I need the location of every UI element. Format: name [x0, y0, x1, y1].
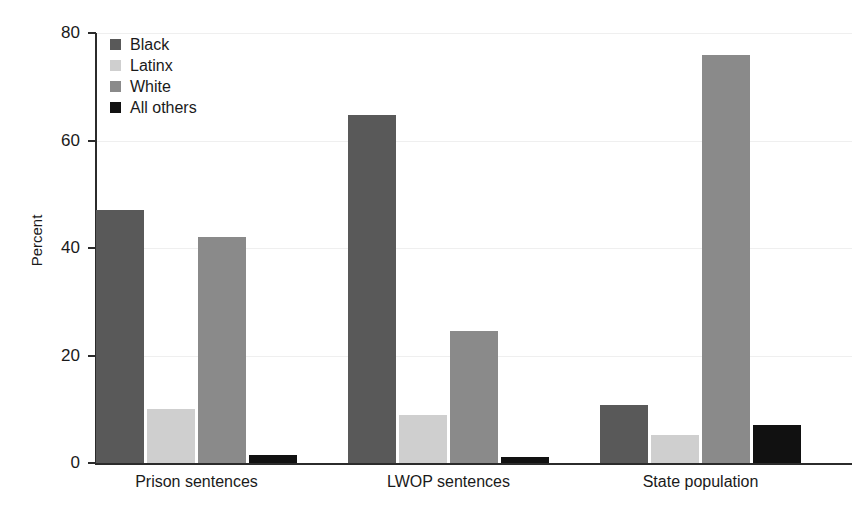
legend-item: White	[110, 76, 197, 97]
y-axis-tick-label: 20	[40, 347, 80, 364]
legend-item-label: All others	[130, 100, 197, 116]
legend-item: Black	[110, 34, 197, 55]
legend-item: Latinx	[110, 55, 197, 76]
legend-item-label: Black	[130, 37, 169, 53]
bar	[702, 55, 750, 463]
y-axis-tick	[88, 247, 96, 249]
y-axis-tick-label: 0	[40, 454, 80, 471]
bar	[348, 115, 396, 463]
legend-swatch-icon	[110, 102, 121, 113]
bar	[753, 425, 801, 463]
x-axis-line	[95, 463, 852, 465]
legend-swatch-icon	[110, 60, 121, 71]
y-axis-tick-label: 80	[40, 24, 80, 41]
y-axis-tick-label: 40	[40, 239, 80, 256]
legend-swatch-icon	[110, 39, 121, 50]
bar	[501, 457, 549, 463]
bar	[249, 455, 297, 463]
bar	[96, 210, 144, 463]
bar	[600, 405, 648, 463]
legend: BlackLatinxWhiteAll others	[110, 34, 197, 118]
bar	[450, 331, 498, 463]
legend-swatch-icon	[110, 81, 121, 92]
plot-area	[96, 33, 852, 463]
y-axis-tick-label: 60	[40, 132, 80, 149]
bar	[399, 415, 447, 463]
bar	[651, 435, 699, 463]
y-axis-tick	[88, 32, 96, 34]
bar	[147, 409, 195, 463]
y-axis-tick	[88, 355, 96, 357]
y-axis-tick	[88, 140, 96, 142]
bar-chart: 020406080 Percent Prison sentencesLWOP s…	[0, 0, 865, 517]
y-axis-tick	[88, 462, 96, 464]
bar	[198, 237, 246, 463]
y-axis-title: Percent	[28, 181, 45, 301]
x-axis-label-2: LWOP sentences	[339, 473, 559, 491]
legend-item-label: Latinx	[130, 58, 173, 74]
legend-item: All others	[110, 97, 197, 118]
x-axis-label-1: Prison sentences	[87, 473, 307, 491]
x-axis-label-3: State population	[591, 473, 811, 491]
legend-item-label: White	[130, 79, 171, 95]
